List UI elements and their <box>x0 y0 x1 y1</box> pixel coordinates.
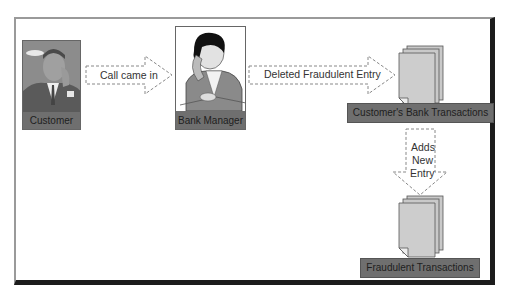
arrow-call-came-in-label: Call came in <box>100 69 158 81</box>
bank-manager-illustration <box>176 27 246 111</box>
arrow-adds-new-entry-label-line2: New <box>412 154 433 166</box>
customer-label: Customer <box>22 112 81 130</box>
bank-manager-node: Bank Manager <box>175 26 246 130</box>
arrow-adds-new-entry-label-line1: Adds <box>411 141 435 153</box>
fraudulent-transactions-document-stack-icon <box>398 196 448 258</box>
customer-illustration <box>23 41 81 113</box>
customer-node: Customer <box>22 40 81 130</box>
arrow-adds-new-entry-label-line3: Entry <box>410 167 435 179</box>
customer-transactions-document-stack-icon <box>398 46 448 108</box>
customer-transactions-label: Customer's Bank Transactions <box>347 103 494 123</box>
fraudulent-transactions-label: Fraudulent Transactions <box>360 258 480 278</box>
bank-manager-label: Bank Manager <box>175 111 246 130</box>
arrow-deleted-fraudulent-entry-label: Deleted Fraudulent Entry <box>264 68 381 80</box>
